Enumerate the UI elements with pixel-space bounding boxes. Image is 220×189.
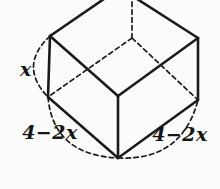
box-diagram — [0, 0, 220, 189]
figure-canvas: x 4−2x 4−2x — [0, 0, 220, 189]
base-front-right-edge-label: 4−2x — [152, 125, 208, 144]
height-edge-label: x — [20, 60, 32, 79]
solid-edge-top-face-left — [50, 36, 118, 96]
base-front-left-edge-label: 4−2x — [22, 123, 78, 142]
hidden-edge-back-to-right — [132, 38, 198, 100]
solid-edge-top-face-right — [118, 38, 198, 96]
solid-edge-top-left — [50, 0, 120, 36]
solid-edge-left-vertical — [48, 36, 50, 97]
